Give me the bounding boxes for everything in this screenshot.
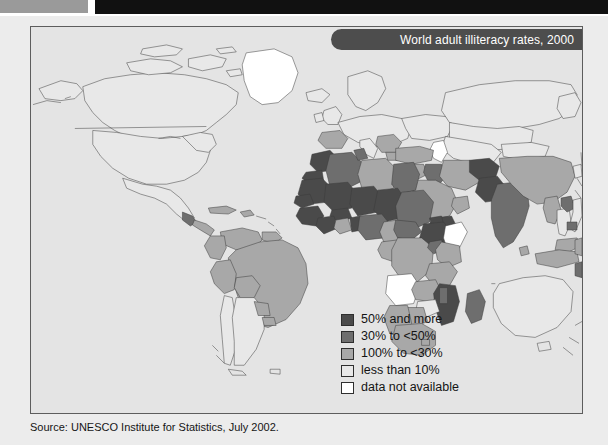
legend-swatch-data-not-available: [341, 382, 354, 394]
legend-item-data-not-available: data not available: [341, 380, 459, 395]
legend-label-50-and-more: 50% and more: [361, 313, 442, 326]
map-legend: 50% and more 30% to <50% 100% to <30% le…: [341, 312, 459, 395]
top-bar-black-block: [95, 0, 608, 14]
legend-label-less-than-10: less than 10%: [361, 364, 440, 377]
source-note: Source: UNESCO Institute for Statistics,…: [30, 421, 279, 433]
legend-swatch-less-than-10: [341, 365, 354, 377]
map-title-text: World adult illiteracy rates, 2000: [400, 33, 574, 47]
legend-item-50-and-more: 50% and more: [341, 312, 459, 327]
legend-label-30-to-50: 30% to <50%: [361, 330, 436, 343]
legend-label-data-not-available: data not available: [361, 381, 459, 394]
legend-swatch-100-to-30: [341, 348, 354, 360]
legend-swatch-50-and-more: [341, 314, 354, 326]
map-title-banner: World adult illiteracy rates, 2000: [331, 29, 583, 50]
legend-item-30-to-50: 30% to <50%: [341, 329, 459, 344]
world-map-svg: .c50 { fill:#4a4a4a; stroke:#3a3a3a; str…: [31, 27, 582, 413]
legend-item-less-than-10: less than 10%: [341, 363, 459, 378]
legend-item-100-to-30: 100% to <30%: [341, 346, 459, 361]
top-decoration-bar: [0, 0, 608, 16]
legend-label-100-to-30: 100% to <30%: [361, 347, 443, 360]
legend-swatch-30-to-50: [341, 331, 354, 343]
top-bar-gray-block: [0, 0, 88, 13]
map-figure: .c50 { fill:#4a4a4a; stroke:#3a3a3a; str…: [30, 26, 583, 414]
